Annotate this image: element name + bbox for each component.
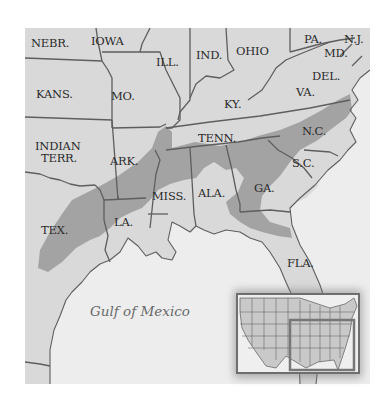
- label-fla: FLA.: [287, 256, 314, 270]
- inset-locator-map: [234, 290, 362, 378]
- label-gulf-of-mexico: Gulf of Mexico: [90, 303, 190, 319]
- label-del: DEL.: [312, 69, 340, 83]
- label-la: LA.: [114, 215, 133, 229]
- label-kans: KANS.: [36, 87, 73, 101]
- label-mo: MO.: [111, 89, 135, 103]
- label-ala: ALA.: [197, 186, 225, 200]
- label-ga: GA.: [254, 181, 275, 195]
- label-sc: S.C.: [292, 156, 314, 170]
- label-ohio: OHIO: [236, 44, 269, 58]
- label-ark: ARK.: [109, 154, 138, 168]
- label-ky: KY.: [224, 97, 241, 111]
- label-ill: ILL.: [156, 55, 179, 69]
- label-md: MD.: [324, 46, 348, 60]
- label-nc: N.C.: [302, 124, 326, 138]
- historical-map: NEBR. IOWA ILL. IND. OHIO PA. N.J. MD. D…: [0, 0, 392, 403]
- label-nj: N.J.: [344, 32, 364, 46]
- label-tex: TEX.: [41, 223, 68, 237]
- label-ind: IND.: [196, 48, 222, 62]
- label-pa: PA.: [304, 32, 322, 46]
- label-va: VA.: [295, 85, 315, 99]
- label-indian-terr-2: TERR.: [41, 151, 77, 165]
- label-iowa: IOWA: [91, 34, 125, 48]
- label-miss: MISS.: [152, 189, 186, 203]
- label-nebr: NEBR.: [31, 36, 69, 50]
- label-tenn: TENN.: [198, 131, 236, 145]
